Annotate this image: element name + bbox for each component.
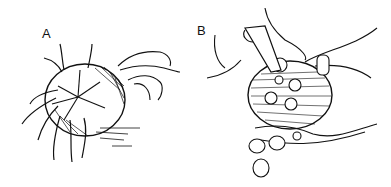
panel-a: A — [0, 0, 195, 187]
panel-b: B — [195, 0, 391, 187]
urchin-illustration-a — [0, 0, 195, 187]
urchin-illustration-b — [195, 0, 391, 187]
